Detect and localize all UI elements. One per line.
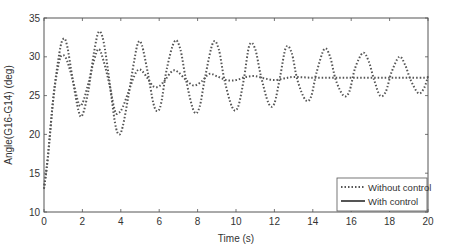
y-tick-label: 10 xyxy=(29,207,41,218)
x-tick-label: 0 xyxy=(41,216,47,227)
x-tick-label: 16 xyxy=(346,216,358,227)
legend: Without control With control xyxy=(337,178,431,211)
y-tick-label: 20 xyxy=(29,129,41,140)
y-tick-label: 35 xyxy=(29,13,41,24)
x-tick-label: 10 xyxy=(230,216,242,227)
legend-label-without-control: Without control xyxy=(368,182,431,193)
x-axis-label: Time (s) xyxy=(218,233,254,244)
plot-series-group xyxy=(44,31,428,188)
legend-label-with-control: With control xyxy=(368,196,418,207)
x-tick-label: 6 xyxy=(156,216,162,227)
x-tick-label: 12 xyxy=(269,216,281,227)
x-tick-label: 14 xyxy=(307,216,319,227)
y-tick-label: 15 xyxy=(29,168,41,179)
series-line-without-control xyxy=(44,31,428,188)
y-axis-label: Angle(G16-G14) (deg) xyxy=(3,65,14,165)
series-line-with-control xyxy=(44,49,428,189)
line-chart-figure: 02468101214161820101520253035 Time (s) A… xyxy=(0,0,451,250)
x-tick-label: 2 xyxy=(80,216,86,227)
chart-canvas: 02468101214161820101520253035 Time (s) A… xyxy=(0,0,451,250)
x-tick-label: 18 xyxy=(384,216,396,227)
y-tick-label: 30 xyxy=(29,51,41,62)
x-tick-label: 4 xyxy=(118,216,124,227)
x-tick-label: 20 xyxy=(422,216,434,227)
x-tick-label: 8 xyxy=(195,216,201,227)
y-tick-label: 25 xyxy=(29,90,41,101)
